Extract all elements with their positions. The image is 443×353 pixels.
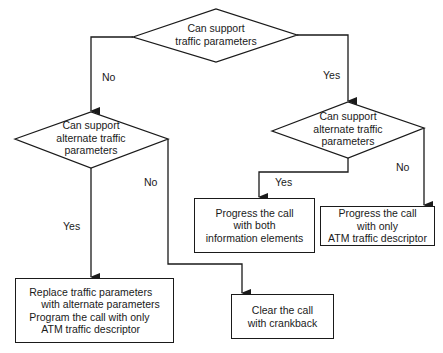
edge-label-d2-yes: Yes [63,220,80,232]
process-3-line-4: ATM traffic descriptor [29,323,159,336]
decision-1-text: Can support traffic parameters [156,22,276,47]
process-box-progress-only: Progress the call with only ATM traffic … [320,206,435,246]
decision-3-line-3: parameters [298,135,398,148]
decision-2-line-1: Can support [41,119,141,132]
process-3-line-3: Program the call with only [29,311,159,324]
process-2-line-2: with only [328,220,427,233]
process-3-line-1: Replace traffic parameters [29,286,159,299]
process-4-line-1: Clear the call [248,304,317,317]
process-1-line-1: Progress the call [206,207,303,220]
process-box-progress-both: Progress the call with both information … [194,198,315,253]
process-3-line-2: with alternate parameters [29,298,159,311]
process-box-replace-parameters: Replace traffic parameters with alternat… [15,278,174,343]
decision-1-line-1: Can support [156,22,276,35]
decision-3-line-2: alternate traffic [298,123,398,136]
process-4-line-2: with crankback [248,317,317,330]
decision-2-line-2: alternate traffic [41,132,141,145]
edge-label-d3-no: No [396,161,409,173]
process-1-line-3: information elements [206,232,303,245]
process-2-line-3: ATM traffic descriptor [328,232,427,245]
edge-label-d1-yes: Yes [323,69,340,81]
edge-label-d3-yes: Yes [275,176,292,188]
decision-3-line-1: Can support [298,110,398,123]
process-1-line-2: with both [206,219,303,232]
process-2-line-1: Progress the call [328,207,427,220]
decision-1-line-2: traffic parameters [156,35,276,48]
decision-3-text: Can support alternate traffic parameters [298,110,398,148]
process-box-clear-call: Clear the call with crankback [231,294,334,339]
decision-2-line-3: parameters [41,144,141,157]
edge-label-d2-no: No [144,176,157,188]
edge-label-d1-no: No [102,71,115,83]
decision-2-text: Can support alternate traffic parameters [41,119,141,157]
